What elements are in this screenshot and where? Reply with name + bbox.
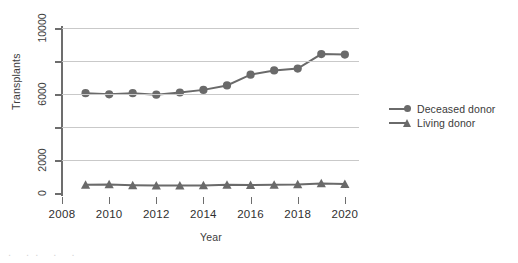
x-axis-tick-label: 2018 bbox=[284, 208, 311, 220]
data-point-circle-icon bbox=[199, 86, 207, 94]
y-axis-tick bbox=[55, 61, 62, 63]
gridline bbox=[62, 127, 359, 128]
series-living-donor bbox=[81, 179, 349, 190]
x-axis-tick-label: 2016 bbox=[237, 208, 264, 220]
y-axis-tick-label: 6000 bbox=[36, 74, 48, 114]
data-point-circle-icon bbox=[270, 66, 278, 74]
x-axis-tick-label: 2010 bbox=[96, 208, 123, 220]
series-layer bbox=[62, 28, 359, 193]
x-axis-tick bbox=[345, 197, 346, 204]
gridline bbox=[62, 28, 359, 29]
legend-label-deceased-donor: Deceased donor bbox=[417, 103, 495, 115]
gridline bbox=[62, 61, 359, 62]
gridline bbox=[62, 94, 359, 95]
x-axis-title: Year bbox=[200, 231, 222, 243]
x-axis-tick bbox=[62, 197, 63, 204]
x-axis-tick-label: 2014 bbox=[190, 208, 217, 220]
legend-swatch-circle-icon bbox=[389, 103, 413, 114]
y-axis-tick bbox=[55, 160, 62, 162]
y-axis-title: Transplants bbox=[10, 53, 22, 110]
series-deceased-donor bbox=[81, 50, 348, 99]
x-axis-tick-label: 2008 bbox=[49, 208, 76, 220]
x-axis-tick-label: 2012 bbox=[143, 208, 170, 220]
y-axis-tick bbox=[55, 28, 62, 30]
y-axis-tick bbox=[55, 127, 62, 129]
transplants-line-chart: Transplants 02000600010000 2008201020122… bbox=[0, 0, 518, 263]
y-axis-tick-label: 2000 bbox=[36, 140, 48, 180]
x-axis-tick bbox=[109, 197, 110, 204]
data-point-circle-icon bbox=[294, 64, 302, 72]
y-axis-tick bbox=[55, 94, 62, 96]
legend-item-living-donor: Living donor bbox=[389, 116, 514, 129]
x-axis-tick-label: 2020 bbox=[331, 208, 358, 220]
x-axis-tick bbox=[203, 197, 204, 204]
y-axis-tick bbox=[55, 193, 62, 195]
scan-artifact: . .. . . bbox=[8, 246, 208, 260]
legend-label-living-donor: Living donor bbox=[417, 117, 475, 129]
gridline bbox=[62, 160, 359, 161]
data-point-circle-icon bbox=[223, 81, 231, 89]
series-line bbox=[86, 183, 345, 185]
data-point-circle-icon bbox=[176, 88, 184, 96]
x-axis-tick bbox=[156, 197, 157, 204]
chart-legend: Deceased donor Living donor bbox=[389, 102, 514, 130]
data-point-circle-icon bbox=[317, 50, 325, 58]
x-axis-tick bbox=[251, 197, 252, 204]
y-axis-tick-label: 10000 bbox=[36, 8, 48, 48]
data-point-circle-icon bbox=[341, 50, 349, 58]
x-axis-tick bbox=[298, 197, 299, 204]
legend-swatch-triangle-icon bbox=[389, 117, 413, 128]
data-point-circle-icon bbox=[246, 71, 254, 79]
legend-item-deceased-donor: Deceased donor bbox=[389, 102, 514, 115]
plot-area bbox=[62, 28, 359, 193]
